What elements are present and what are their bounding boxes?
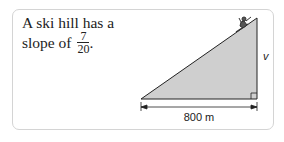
horizontal-length-label: 800 m (184, 111, 215, 123)
vertical-height-label: v (263, 50, 270, 62)
ski-hill-diagram: 800 m v (0, 0, 284, 142)
dimension-line (141, 102, 257, 111)
